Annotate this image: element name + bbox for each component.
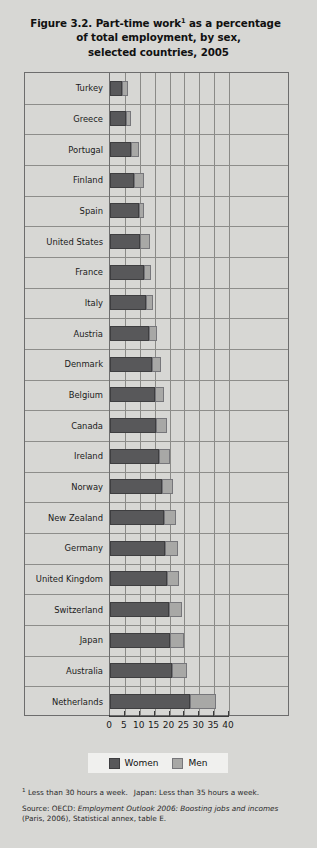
bar-group xyxy=(110,602,290,617)
chart-row: Portugal xyxy=(25,134,288,165)
category-label-spain: Spain xyxy=(25,207,103,215)
bar-group xyxy=(110,510,290,525)
figure-title-line-3: selected countries, 2005 xyxy=(18,45,299,59)
category-label-belgium: Belgium xyxy=(25,391,103,399)
bar-segment-women xyxy=(110,295,146,310)
chart-row: Japan xyxy=(25,625,288,656)
bar-group xyxy=(110,571,290,586)
bar-segment-men xyxy=(159,449,170,464)
bar-segment-men xyxy=(126,111,131,126)
chart-row: Spain xyxy=(25,196,288,227)
bar-segment-men xyxy=(162,479,173,494)
footnote-text-part1: Less than 30 hours a week. xyxy=(26,788,128,797)
category-label-australia: Australia xyxy=(25,667,103,675)
bar-segment-men xyxy=(122,81,129,96)
bar-group xyxy=(110,203,290,218)
bar-segment-women xyxy=(110,694,190,709)
source-note: Source: OECD: Employment Outlook 2006: B… xyxy=(22,804,300,824)
chart-row: Germany xyxy=(25,533,288,564)
category-label-france: France xyxy=(25,268,103,276)
chart-row: Netherlands xyxy=(25,686,288,717)
bar-group xyxy=(110,541,290,556)
chart-row: Denmark xyxy=(25,349,288,380)
bar-segment-men xyxy=(149,326,156,341)
bar-segment-women xyxy=(110,602,169,617)
category-label-germany: Germany xyxy=(25,544,103,552)
category-label-norway: Norway xyxy=(25,483,103,491)
legend-label-men: Men xyxy=(188,758,207,768)
bar-segment-men xyxy=(156,418,166,433)
bar-segment-women xyxy=(110,142,131,157)
plot-area: TurkeyGreecePortugalFinlandSpainUnited S… xyxy=(24,72,289,716)
bar-segment-women xyxy=(110,265,144,280)
legend-label-women: Women xyxy=(125,758,159,768)
figure-container: Figure 3.2. Part-time work1 as a percent… xyxy=(0,0,317,848)
category-label-new-zealand: New Zealand xyxy=(25,514,103,522)
bar-group xyxy=(110,418,290,433)
bar-group xyxy=(110,633,290,648)
chart-row: Austria xyxy=(25,318,288,349)
bar-segment-women xyxy=(110,449,159,464)
chart-row: Canada xyxy=(25,410,288,441)
bar-segment-men xyxy=(172,663,187,678)
legend-swatch-women-icon xyxy=(109,758,120,769)
footnotes-block: 1 Less than 30 hours a week.Japan: Less … xyxy=(22,788,300,831)
source-prefix: Source: OECD: xyxy=(22,804,78,813)
bar-segment-men xyxy=(140,234,150,249)
bar-group xyxy=(110,265,290,280)
bar-segment-women xyxy=(110,111,126,126)
category-label-united-kingdom: United Kingdom xyxy=(25,575,103,583)
footnote-text-part2: Japan: Less than 35 hours a week. xyxy=(134,788,259,797)
chart-row: France xyxy=(25,257,288,288)
bar-segment-men xyxy=(167,571,179,586)
category-label-turkey: Turkey xyxy=(25,84,103,92)
figure-title-line-1-rest: as a percentage xyxy=(186,17,281,29)
category-label-greece: Greece xyxy=(25,115,103,123)
bar-segment-women xyxy=(110,510,164,525)
category-label-portugal: Portugal xyxy=(25,146,103,154)
chart-row: Switzerland xyxy=(25,594,288,625)
chart-row: New Zealand xyxy=(25,502,288,533)
bar-group xyxy=(110,81,290,96)
category-label-denmark: Denmark xyxy=(25,360,103,368)
bar-segment-men xyxy=(131,142,139,157)
category-label-netherlands: Netherlands xyxy=(25,698,103,706)
chart-row: Finland xyxy=(25,165,288,196)
chart-row: Belgium xyxy=(25,380,288,411)
bar-segment-men xyxy=(134,173,144,188)
bar-segment-women xyxy=(110,571,167,586)
category-label-switzerland: Switzerland xyxy=(25,606,103,614)
x-tick-label-40: 40 xyxy=(216,720,240,730)
bar-group xyxy=(110,173,290,188)
bar-group xyxy=(110,111,290,126)
figure-title-line-1: Figure 3.2. Part-time work1 as a percent… xyxy=(18,16,299,30)
bar-segment-women xyxy=(110,663,172,678)
bar-group xyxy=(110,295,290,310)
chart-row: Greece xyxy=(25,104,288,135)
chart-row: Turkey xyxy=(25,73,288,104)
bar-segment-men xyxy=(146,295,153,310)
bar-segment-women xyxy=(110,387,155,402)
figure-title: Figure 3.2. Part-time work1 as a percent… xyxy=(0,16,317,59)
category-label-austria: Austria xyxy=(25,330,103,338)
bar-group xyxy=(110,694,290,709)
chart-row: Italy xyxy=(25,288,288,319)
bar-segment-men xyxy=(152,357,161,372)
source-rest: (Paris, 2006), Statistical annex, table … xyxy=(22,814,166,823)
bar-segment-men xyxy=(169,602,182,617)
bar-segment-men xyxy=(165,541,178,556)
bar-segment-women xyxy=(110,326,149,341)
chart-row: United States xyxy=(25,226,288,257)
chart-row: Australia xyxy=(25,656,288,687)
chart-row: United Kingdom xyxy=(25,564,288,595)
footnote-definition: 1 Less than 30 hours a week.Japan: Less … xyxy=(22,788,300,798)
bar-segment-women xyxy=(110,418,156,433)
chart-row: Ireland xyxy=(25,441,288,472)
bar-segment-women xyxy=(110,234,140,249)
category-label-canada: Canada xyxy=(25,422,103,430)
legend-item-men: Men xyxy=(172,758,207,769)
figure-title-line-2: of total employment, by sex, xyxy=(18,30,299,44)
bar-group xyxy=(110,663,290,678)
category-label-united-states: United States xyxy=(25,238,103,246)
bar-segment-women xyxy=(110,479,162,494)
